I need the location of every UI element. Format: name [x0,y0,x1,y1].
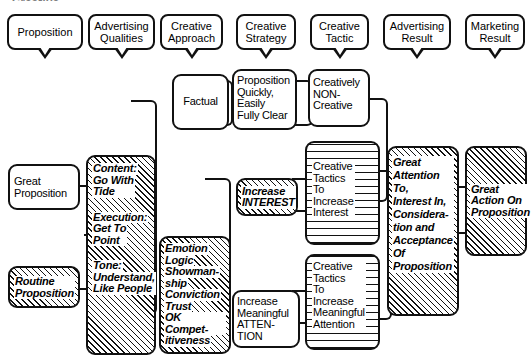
qualities-block: Tone: Understand, Like People [92,260,150,295]
node-label: Showman- [164,266,220,278]
header-label: Advertising Result [390,20,444,44]
header-creative-approach[interactable]: Creative Approach [160,14,223,50]
node-increase-interest[interactable]: Increase INTEREST [236,178,298,216]
node-great-proposition[interactable]: Great Proposition [8,164,80,210]
qualities-heading: Tone: [92,260,123,272]
header-creative-strategy[interactable]: Creative Strategy [236,14,296,50]
node-label: Creative Tactics To Increase Interest [312,161,355,219]
node-creatively-non-creative[interactable]: Creatively NON- Creative [308,69,370,127]
node-routine-proposition[interactable]: Routine Proposition [8,266,80,308]
pointer-inner-icon [187,47,197,55]
node-label: Increase Meaningful ATTEN- TION [237,295,289,342]
node-label: Great Proposition [14,176,67,199]
pointer-inner-icon [335,47,345,55]
node-label: Emotion [164,243,209,255]
qualities-heading: Content: [92,163,138,175]
node-great-action[interactable]: Great Action On Proposition [465,146,527,256]
node-tactics-increase-interest[interactable]: Creative Tactics To Increase Interest [305,141,380,245]
node-label: Creative Tactics To Increase Meaningful … [312,261,366,330]
cropped-title-text: Creative [12,0,59,1]
qualities-body: Go With Tide [92,175,135,198]
node-advertising-qualities[interactable]: Content: Go With Tide Execution: Get To … [86,155,156,355]
qualities-block: Execution: Get To Point [92,212,150,247]
node-tactics-increase-attention[interactable]: Creative Tactics To Increase Meaningful … [305,254,380,350]
qualities-body: Understand, Like People [92,272,156,295]
node-great-attention[interactable]: Great Attention To, Interest In, Conside… [387,146,459,316]
header-label: Creative Approach [168,20,215,44]
qualities-body: Get To Point [92,223,127,246]
node-label: Routine Proposition [14,276,75,299]
qualities-block-content: Content: Go With Tide Execution: Get To … [92,163,150,295]
pointer-inner-icon [40,47,50,55]
header-advertising-qualities[interactable]: Advertising Qualities [88,14,155,50]
node-label: Factual [183,96,218,108]
pointer-inner-icon [117,47,127,55]
header-label: Proposition [17,26,72,38]
header-marketing-result[interactable]: Marketing Result [465,14,525,50]
header-advertising-result[interactable]: Advertising Result [383,14,451,50]
pointer-inner-icon [412,47,422,55]
node-label: Increase INTEREST [241,186,296,209]
pointer-inner-icon [490,47,500,55]
header-label: Creative Tactic [319,20,360,44]
node-factual[interactable]: Factual [172,74,229,130]
header-proposition[interactable]: Proposition [7,14,83,50]
node-label: itiveness [164,335,211,347]
node-label: Great Attention To, Interest In, Conside… [392,156,454,273]
header-label: Creative Strategy [246,20,287,44]
qualities-block: Content: Go With Tide [92,163,150,198]
node-increase-meaningful-attention[interactable]: Increase Meaningful ATTEN- TION [232,290,300,348]
header-creative-tactic[interactable]: Creative Tactic [310,14,369,50]
node-label: Conviction [164,289,221,301]
node-label: Creatively NON- Creative [313,76,360,111]
node-label: Great Action On Proposition [470,184,531,219]
node-label: Proposition Quickly, Easily Fully Clear [237,74,290,121]
pointer-inner-icon [261,47,271,55]
node-creative-attributes[interactable]: Emotion Logic Showman- ship Conviction T… [159,236,231,354]
header-label: Marketing Result [471,20,519,44]
header-label: Advertising Qualities [94,20,148,44]
diagram-canvas: Creative Proposition Advertising Qualiti… [0,0,531,362]
node-proposition-quickly[interactable]: Proposition Quickly, Easily Fully Clear [232,69,297,130]
node-label: OK Compet- [164,312,226,335]
